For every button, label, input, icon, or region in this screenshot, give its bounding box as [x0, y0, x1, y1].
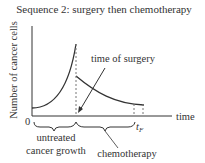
- untreated-label-1: untreated: [36, 132, 76, 143]
- tf-label: tF: [136, 121, 144, 134]
- untreated-label-2: cancer growth: [26, 145, 87, 156]
- origin-label: 0: [25, 116, 30, 127]
- y-axis-label: Number of cancer cells: [8, 21, 19, 119]
- x-axis-label: time: [176, 111, 195, 122]
- chemotherapy-label: chemotherapy: [97, 148, 157, 159]
- untreated-growth-curve: [32, 44, 76, 108]
- chemo-leader-line: [105, 131, 118, 148]
- diagram: Sequence 2: surgery then chemotherapy Nu…: [0, 0, 205, 163]
- chemotherapy-decay-curve: [76, 76, 144, 105]
- chemo-brace: [76, 122, 135, 131]
- diagram-title: Sequence 2: surgery then chemotherapy: [16, 3, 192, 15]
- surgery-annotation: time of surgery: [91, 53, 156, 64]
- surgery-arrow: [80, 68, 105, 110]
- untreated-brace: [34, 122, 76, 131]
